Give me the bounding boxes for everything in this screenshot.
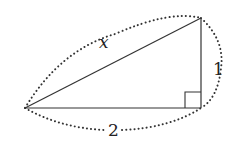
horizontal-leg-label: 2 <box>108 120 119 140</box>
hypotenuse-line <box>25 18 201 108</box>
right-angle-marker <box>185 92 201 108</box>
hypotenuse-label: x <box>99 32 109 52</box>
triangle-diagram: x 1 2 <box>0 0 237 143</box>
vertical-leg-label: 1 <box>213 59 224 79</box>
